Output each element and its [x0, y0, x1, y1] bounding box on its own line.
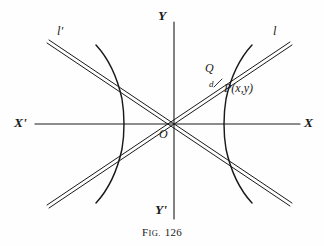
point-q-label: Q: [205, 62, 214, 74]
asymptote-l-label: l: [273, 25, 276, 38]
distance-d-tick: [214, 79, 222, 87]
caption-fig-smallcaps: IG.: [148, 228, 160, 238]
x-positive-axis-label: X: [304, 116, 313, 130]
caption-fig-word: FIG.: [142, 226, 161, 238]
y-positive-axis-label: Y: [158, 9, 166, 23]
point-p-label: P(x,y): [224, 82, 253, 94]
asymptote-l-prime-label: l': [57, 25, 63, 38]
figure-caption: FIG. 126: [0, 222, 324, 240]
origin-label: O: [159, 128, 168, 140]
distance-d-label: d: [209, 80, 214, 89]
x-negative-axis-label: X': [14, 116, 27, 130]
figure-container: X' X Y Y' O l l' Q d P(x,y) FIG. 126: [0, 0, 324, 246]
caption-fig-number: 126: [165, 226, 182, 238]
y-negative-axis-label: Y': [155, 203, 167, 217]
